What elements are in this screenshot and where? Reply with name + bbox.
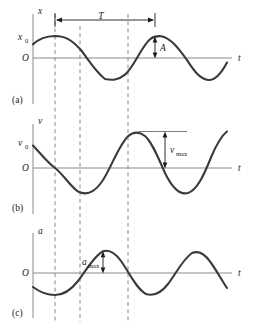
shm-figure: T A x t O x 0 (a) v max bbox=[0, 0, 254, 328]
figure-background bbox=[0, 0, 254, 328]
displacement-axis-label: x bbox=[37, 6, 43, 16]
velocity-origin-label: O bbox=[22, 163, 29, 173]
velocity-initial-subscript: 0 bbox=[25, 143, 28, 150]
max-acceleration-label: a bbox=[82, 257, 87, 267]
shm-diagram-svg: T A x t O x 0 (a) v max bbox=[0, 0, 254, 328]
velocity-time-label: t bbox=[238, 163, 241, 173]
panel-label-b: (b) bbox=[12, 203, 23, 214]
max-velocity-subscript: max bbox=[176, 150, 188, 157]
displacement-origin-label: O bbox=[22, 53, 29, 63]
displacement-initial-label: x bbox=[17, 32, 23, 42]
amplitude-label: A bbox=[159, 43, 166, 53]
period-label: T bbox=[98, 11, 104, 21]
acceleration-axis-label: a bbox=[38, 226, 43, 236]
displacement-initial-subscript: 0 bbox=[25, 37, 28, 44]
panel-label-a: (a) bbox=[12, 95, 23, 106]
panel-label-c: (c) bbox=[12, 308, 23, 319]
max-acceleration-subscript: max bbox=[88, 262, 100, 269]
acceleration-origin-label: O bbox=[22, 268, 29, 278]
displacement-time-label: t bbox=[238, 53, 241, 63]
acceleration-time-label: t bbox=[238, 268, 241, 278]
